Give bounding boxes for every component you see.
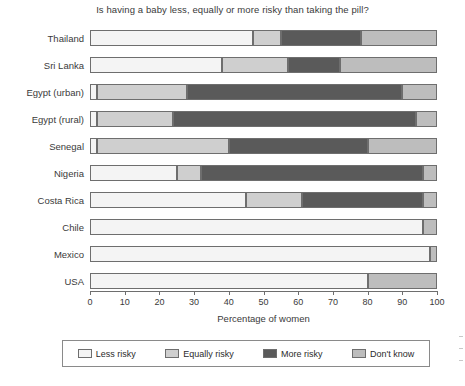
bar-row <box>90 219 437 235</box>
legend-item[interactable]: Don't know <box>352 349 414 359</box>
bar-segment <box>423 192 437 208</box>
edge-artifacts <box>457 330 463 376</box>
edge-mark <box>459 360 463 361</box>
bar-segment <box>177 165 201 181</box>
bar-row <box>90 192 437 208</box>
x-axis-tick <box>333 291 334 295</box>
x-axis-tick <box>90 291 91 295</box>
bar-segment <box>361 30 437 46</box>
category-label: Senegal <box>0 141 84 152</box>
bar-segment <box>90 246 430 262</box>
bar-segment <box>416 111 437 127</box>
chart-legend: Less riskyEqually riskyMore riskyDon't k… <box>62 340 430 367</box>
bar-segment <box>281 30 361 46</box>
bar-row <box>90 138 437 154</box>
bar-segment <box>97 111 173 127</box>
category-label: Thailand <box>0 33 84 44</box>
bar-track <box>90 84 437 100</box>
bar-track <box>90 165 437 181</box>
bar-segment <box>173 111 416 127</box>
legend-item[interactable]: More risky <box>263 349 323 359</box>
bar-segment <box>201 165 423 181</box>
bar-segment <box>97 138 229 154</box>
bar-segment <box>90 192 246 208</box>
bar-segment <box>253 30 281 46</box>
x-axis-tick-label: 10 <box>110 297 140 307</box>
legend-label: Less risky <box>96 349 136 359</box>
bar-row <box>90 246 437 262</box>
legend-label: More risky <box>281 349 323 359</box>
chart-title: Is having a baby less, equally or more r… <box>0 4 465 15</box>
bar-segment <box>90 111 97 127</box>
bar-segment <box>90 219 423 235</box>
bar-segment <box>90 138 97 154</box>
bar-segment <box>402 84 437 100</box>
bar-segment <box>430 246 437 262</box>
bar-row <box>90 273 437 289</box>
category-label: Mexico <box>0 249 84 260</box>
plot-area <box>90 28 437 291</box>
category-label: Egypt (urban) <box>0 87 84 98</box>
chart-figure: Is having a baby less, equally or more r… <box>0 0 465 386</box>
bar-segment <box>368 273 437 289</box>
x-axis-tick <box>159 291 160 295</box>
bar-segment <box>288 57 340 73</box>
edge-mark <box>459 336 463 337</box>
bar-segment <box>423 219 437 235</box>
x-axis-title: Percentage of women <box>90 313 437 324</box>
x-axis-tick <box>264 291 265 295</box>
x-axis-tick-label: 30 <box>179 297 209 307</box>
category-label: Egypt (rural) <box>0 114 84 125</box>
bar-track <box>90 246 437 262</box>
x-axis-tick <box>194 291 195 295</box>
x-axis-tick <box>229 291 230 295</box>
legend-swatch-icon <box>165 349 179 358</box>
legend-swatch-icon <box>78 349 92 358</box>
category-label: USA <box>0 276 84 287</box>
bar-track <box>90 111 437 127</box>
edge-mark <box>459 348 463 349</box>
x-axis-tick-label: 50 <box>249 297 279 307</box>
bar-row <box>90 111 437 127</box>
x-axis-tick <box>437 291 438 295</box>
bar-segment <box>90 30 253 46</box>
legend-swatch-icon <box>263 349 277 358</box>
legend-swatch-icon <box>352 349 366 358</box>
bar-segment <box>423 165 437 181</box>
x-axis-tick-label: 20 <box>144 297 174 307</box>
x-axis-line: 0102030405060708090100 <box>90 291 437 292</box>
bar-segment <box>302 192 423 208</box>
x-axis-tick-label: 70 <box>318 297 348 307</box>
bar-row <box>90 57 437 73</box>
category-label: Costa Rica <box>0 195 84 206</box>
bar-segment <box>90 165 177 181</box>
bar-segment <box>187 84 402 100</box>
legend-item[interactable]: Less risky <box>78 349 136 359</box>
bar-segment <box>368 138 437 154</box>
x-axis-tick <box>125 291 126 295</box>
bar-row <box>90 165 437 181</box>
bar-segment <box>90 84 97 100</box>
bar-segment <box>229 138 368 154</box>
bar-segment <box>90 57 222 73</box>
bar-track <box>90 273 437 289</box>
bar-track <box>90 138 437 154</box>
x-axis-tick-label: 40 <box>214 297 244 307</box>
x-axis-tick <box>402 291 403 295</box>
bar-row <box>90 30 437 46</box>
x-axis-tick <box>368 291 369 295</box>
bar-track <box>90 192 437 208</box>
category-label: Chile <box>0 222 84 233</box>
x-axis-tick-label: 90 <box>387 297 417 307</box>
bar-segment <box>340 57 437 73</box>
category-label: Sri Lanka <box>0 60 84 71</box>
bar-segment <box>222 57 288 73</box>
legend-item[interactable]: Equally risky <box>165 349 234 359</box>
x-axis-tick-label: 100 <box>422 297 452 307</box>
x-axis-tick-label: 0 <box>75 297 105 307</box>
x-axis-tick-label: 60 <box>283 297 313 307</box>
bar-track <box>90 57 437 73</box>
bar-segment <box>97 84 187 100</box>
bar-segment <box>246 192 302 208</box>
x-axis-tick <box>298 291 299 295</box>
